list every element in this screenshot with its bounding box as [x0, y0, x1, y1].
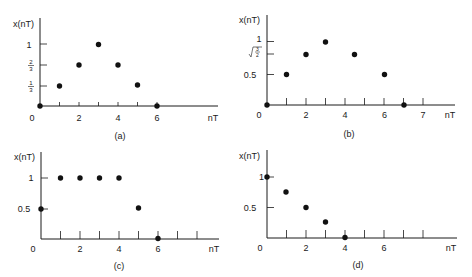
y-tick-label-sqrt3-den: 2: [256, 52, 259, 58]
x-tick-label-4: 4: [342, 110, 347, 120]
panel-caption: (d): [353, 260, 364, 270]
y-axis-label: x(nT): [14, 152, 35, 162]
y-tick-label-1: 1: [256, 34, 261, 44]
y-tick-label-1-3-den: 3: [29, 87, 33, 93]
y-tick-label-1: 1: [259, 172, 264, 182]
x-ticks: [287, 230, 424, 238]
x-axis-label: nT: [208, 113, 219, 123]
x-origin-label: 0: [29, 113, 34, 123]
x-ticks: [61, 231, 198, 239]
x-origin-label: 0: [256, 110, 261, 120]
data-points: [37, 42, 159, 109]
panel-c: x(nT) 1 0.5 0 2 4 6 nT (c): [14, 152, 220, 271]
panel-caption: (a): [115, 131, 126, 141]
y-ticks: [267, 42, 274, 75]
x-tick-label-7: 7: [420, 110, 425, 120]
data-points: [264, 39, 406, 107]
y-tick-label-2-3-num: 2: [29, 59, 33, 65]
x-tick-label-6: 6: [382, 110, 387, 120]
panel-caption: (b): [344, 129, 355, 139]
x-tick-label-4: 4: [116, 244, 121, 254]
x-tick-label-2: 2: [76, 113, 81, 123]
y-tick-label-0.5: 0.5: [244, 203, 257, 213]
panel-d: x(nT) 1 0.5 0 2 4 6 nT (d): [239, 150, 457, 270]
x-tick-label-6: 6: [381, 243, 386, 253]
y-tick-label-1-3-num: 1: [29, 80, 33, 86]
x-origin-label: 0: [30, 244, 35, 254]
y-ticks: [40, 44, 47, 86]
x-tick-label-4: 4: [342, 243, 347, 253]
x-tick-label-2: 2: [303, 110, 308, 120]
y-tick-label-1: 1: [26, 40, 31, 50]
y-tick-label-0.5: 0.5: [244, 70, 257, 80]
y-axis-label: x(nT): [239, 151, 260, 161]
x-axis-label: nT: [446, 243, 457, 253]
y-tick-label-1: 1: [28, 173, 33, 183]
x-tick-label-4: 4: [115, 113, 120, 123]
panel-caption: (c): [114, 261, 125, 271]
y-axis-label: x(nT): [239, 15, 260, 25]
y-axis-label: x(nT): [13, 19, 34, 29]
x-tick-label-6: 6: [154, 113, 159, 123]
x-axis-label: nT: [209, 244, 220, 254]
x-axis-label: nT: [445, 110, 456, 120]
x-tick-label-2: 2: [77, 244, 82, 254]
x-tick-label-6: 6: [155, 244, 160, 254]
y-tick-label-0.5: 0.5: [18, 204, 31, 214]
x-origin-label: 0: [257, 243, 262, 253]
x-ticks: [60, 102, 158, 106]
y-tick-label-2-3-den: 3: [29, 66, 33, 72]
panel-b: x(nT) 1 3 2 0.5 0 2 4 6 7 nT (b): [239, 15, 456, 139]
y-ticks: [41, 178, 48, 209]
panel-a: x(nT) 1 2 3 1 3 0 2 4 6 nT (a): [13, 18, 219, 141]
x-tick-label-2: 2: [303, 243, 308, 253]
y-ticks: [267, 177, 274, 208]
figure-canvas: x(nT) 1 2 3 1 3 0 2 4 6 nT (a) x(nT): [0, 0, 472, 277]
